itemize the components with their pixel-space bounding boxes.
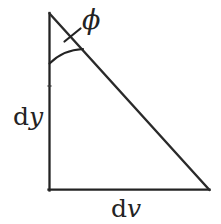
horizontal-leg-label: dv xyxy=(111,196,141,221)
horizontal-leg-label-variable: v xyxy=(127,194,141,223)
vertical-leg-label-variable: y xyxy=(29,102,43,131)
hypotenuse-line xyxy=(50,14,210,191)
vertical-leg-label-d: d xyxy=(13,102,29,131)
vertical-leg-label: dy xyxy=(13,104,43,129)
angle-arc xyxy=(50,49,84,64)
angle-phi-label: ϕ xyxy=(82,6,100,33)
horizontal-leg-label-d: d xyxy=(111,194,127,223)
figure-canvas: dy dv ϕ xyxy=(0,0,221,224)
